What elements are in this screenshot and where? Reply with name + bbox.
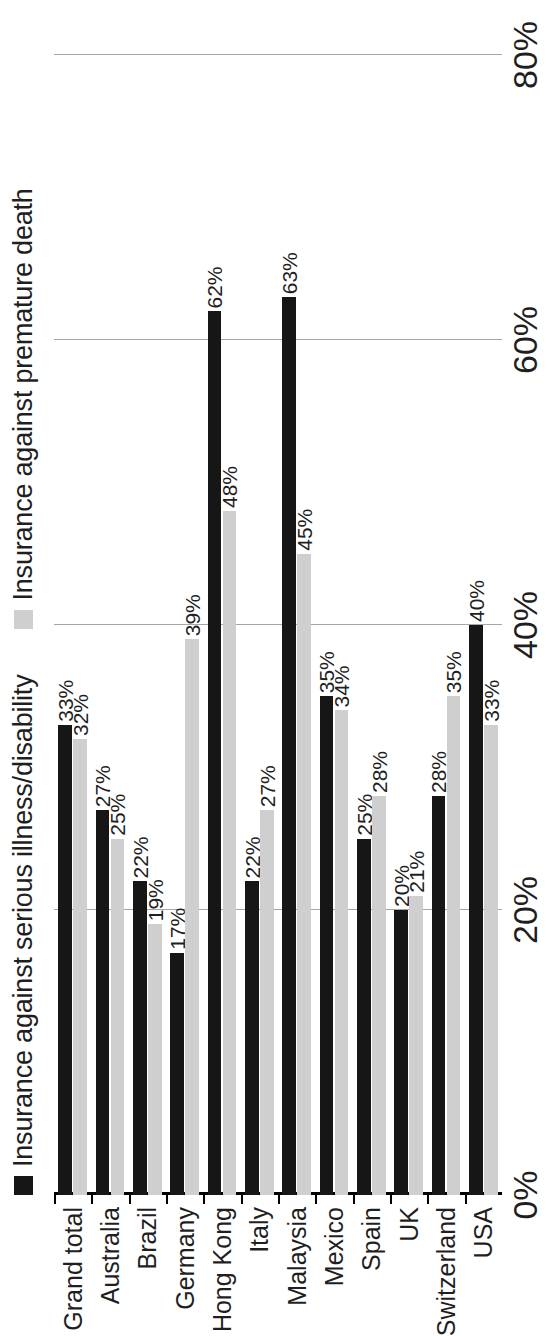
bar-value-label: 25% <box>107 794 128 839</box>
category-label: Malaysia <box>284 1207 309 1306</box>
bar-group: 22%27% <box>241 55 278 1195</box>
category-axis-tick <box>241 1195 243 1204</box>
category-axis-tick <box>465 1195 467 1204</box>
bar-value-label: 34% <box>331 665 352 710</box>
bar-group: 62%48% <box>203 55 240 1195</box>
category-label: Mexico <box>322 1207 347 1286</box>
bar-group: 28%35% <box>427 55 464 1195</box>
category-axis-tick <box>390 1195 392 1204</box>
bar-death[interactable]: 28% <box>372 796 386 1195</box>
bar-group: 22%19% <box>129 55 166 1195</box>
category-axis-tick <box>166 1195 168 1204</box>
bar-illness[interactable]: 62% <box>208 312 222 1196</box>
bar-illness[interactable]: 17% <box>170 953 184 1195</box>
category-axis-tick <box>278 1195 280 1204</box>
bar-value-label: 62% <box>204 266 225 311</box>
bar-group: 35%34% <box>315 55 352 1195</box>
category-label: Australia <box>98 1207 123 1304</box>
bar-group: 17%39% <box>166 55 203 1195</box>
bar-value-label: 48% <box>219 466 240 511</box>
bar-value-label: 32% <box>70 694 91 739</box>
bar-value-label: 33% <box>480 680 501 725</box>
value-axis-tick-label: 80% <box>508 21 542 89</box>
legend-item-label: Insurance against premature death <box>10 188 37 600</box>
bar-death[interactable]: 25% <box>111 839 125 1195</box>
category-label: Grand total <box>60 1207 85 1331</box>
legend-item[interactable]: Insurance against premature death <box>10 188 37 628</box>
bar-group: 40%33% <box>465 55 502 1195</box>
bar-value-label: 21% <box>406 851 427 896</box>
bar-illness[interactable]: 28% <box>432 796 446 1195</box>
category-axis-tick <box>353 1195 355 1204</box>
bar-death[interactable]: 48% <box>223 511 237 1195</box>
bar-death[interactable]: 34% <box>335 711 349 1196</box>
bar-value-label: 28% <box>368 751 389 796</box>
bar-illness[interactable]: 35% <box>320 696 334 1195</box>
legend-item-label: Insurance against serious illness/disabi… <box>10 675 37 1167</box>
bar-value-label: 45% <box>294 509 315 554</box>
bar-death[interactable]: 27% <box>260 810 274 1195</box>
bar-group: 33%32% <box>54 55 91 1195</box>
bar-group: 25%28% <box>353 55 390 1195</box>
bar-group: 27%25% <box>91 55 128 1195</box>
category-label: Brazil <box>135 1207 160 1270</box>
bar-value-label: 35% <box>443 651 464 696</box>
legend-swatch-icon <box>14 610 33 629</box>
value-axis-tick-label: 0% <box>508 1170 542 1219</box>
bar-value-label: 63% <box>279 252 300 297</box>
category-label: Italy <box>247 1207 272 1253</box>
bar-illness[interactable]: 22% <box>133 882 147 1196</box>
bar-value-label: 27% <box>256 765 277 810</box>
category-label: Hong Kong <box>210 1207 235 1332</box>
value-axis-tick-label: 60% <box>508 306 542 374</box>
category-axis-tick <box>91 1195 93 1204</box>
category-axis-tick <box>54 1195 56 1204</box>
bar-death[interactable]: 21% <box>409 896 423 1195</box>
legend-swatch-icon <box>14 1176 33 1195</box>
bar-death[interactable]: 33% <box>484 725 498 1195</box>
bar-illness[interactable]: 22% <box>245 882 259 1196</box>
bar-death[interactable]: 32% <box>73 739 87 1195</box>
category-axis-tick <box>203 1195 205 1204</box>
plot-area: 33%32%27%25%22%19%17%39%62%48%22%27%63%4… <box>54 55 502 1195</box>
bar-illness[interactable]: 20% <box>394 910 408 1195</box>
bar-group: 20%21% <box>390 55 427 1195</box>
legend-item[interactable]: Insurance against serious illness/disabi… <box>10 675 37 1195</box>
category-label: USA <box>471 1207 496 1258</box>
bar-death[interactable]: 39% <box>185 639 199 1195</box>
chart-legend: Insurance against serious illness/disabi… <box>0 0 46 1291</box>
bar-value-label: 22% <box>129 836 150 881</box>
bar-value-label: 39% <box>182 594 203 639</box>
bar-death[interactable]: 35% <box>447 696 461 1195</box>
bar-death[interactable]: 45% <box>297 554 311 1195</box>
category-label: Switzerland <box>434 1207 459 1336</box>
category-label: Spain <box>359 1207 384 1271</box>
bar-illness[interactable]: 63% <box>282 297 296 1195</box>
value-axis-tick-labels: 0%20%40%60%80% <box>508 55 554 1195</box>
value-axis-tick-label: 40% <box>508 591 542 659</box>
category-axis-tick <box>129 1195 131 1204</box>
bar-illness[interactable]: 25% <box>357 839 371 1195</box>
category-label: Germany <box>172 1207 197 1310</box>
bar-illness[interactable]: 27% <box>96 810 110 1195</box>
category-axis-tick <box>315 1195 317 1204</box>
category-label: UK <box>396 1207 421 1242</box>
bar-group: 63%45% <box>278 55 315 1195</box>
bar-value-label: 19% <box>144 879 165 924</box>
category-axis-tick <box>427 1195 429 1204</box>
value-axis-tick-label: 20% <box>508 876 542 944</box>
bar-death[interactable]: 19% <box>148 924 162 1195</box>
bar-value-label: 40% <box>465 580 486 625</box>
bar-illness[interactable]: 33% <box>58 725 72 1195</box>
